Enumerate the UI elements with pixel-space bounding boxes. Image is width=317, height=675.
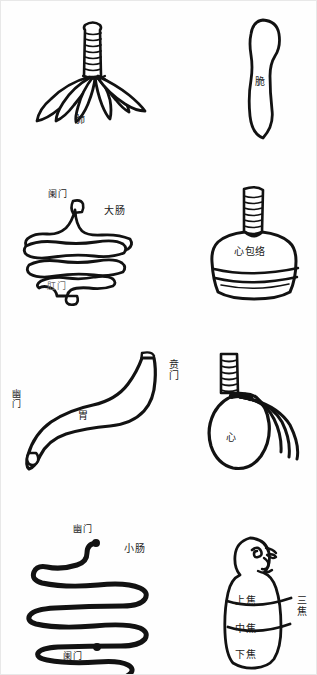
pericardium-icon	[209, 185, 304, 305]
lung-icon	[23, 19, 163, 124]
small-intestine-label: 小肠	[124, 544, 145, 555]
small-intestine-inlet-label: 幽门	[73, 525, 92, 534]
figure-small-intestine: 幽门 小肠 阑门	[29, 539, 164, 654]
figure-pericardium: 心包络	[209, 185, 304, 305]
middle-burner-label: 中焦	[235, 624, 256, 635]
triple-burner-label: 三焦	[295, 595, 306, 617]
figure-lung: 肺	[23, 19, 163, 124]
figure-large-intestine: 阑门 大肠 肛门	[17, 197, 152, 302]
figure-heart: 心	[204, 351, 314, 471]
heart-icon	[204, 351, 314, 471]
large-intestine-icon	[17, 197, 152, 302]
large-intestine-label: 大肠	[104, 206, 125, 217]
stomach-label: 胃	[78, 411, 89, 422]
organ-diagram-page: 肺 脆 阑门 大肠 肛门	[0, 0, 317, 675]
lower-burner-label: 下焦	[235, 650, 256, 661]
heart-label: 心	[226, 433, 237, 444]
upper-burner-label: 上焦	[235, 596, 256, 607]
large-intestine-outlet-label: 肛门	[47, 282, 66, 291]
figure-triple-burner: 上焦 中焦 下焦 三焦	[217, 533, 312, 668]
large-intestine-inlet-label: 阑门	[48, 190, 67, 199]
small-intestine-outlet-label: 阑门	[63, 652, 82, 661]
pericardium-label: 心包络	[234, 247, 266, 258]
stomach-cardia-label: 贲门	[167, 359, 178, 381]
lung-label: 肺	[75, 115, 86, 126]
spleen-label: 脆	[255, 77, 266, 88]
stomach-icon	[11, 349, 171, 469]
figure-spleen: 脆	[233, 17, 293, 142]
small-intestine-icon	[29, 539, 164, 654]
figure-stomach: 幽门 贲门 胃	[11, 349, 171, 469]
stomach-pylorus-label: 幽门	[11, 389, 20, 409]
